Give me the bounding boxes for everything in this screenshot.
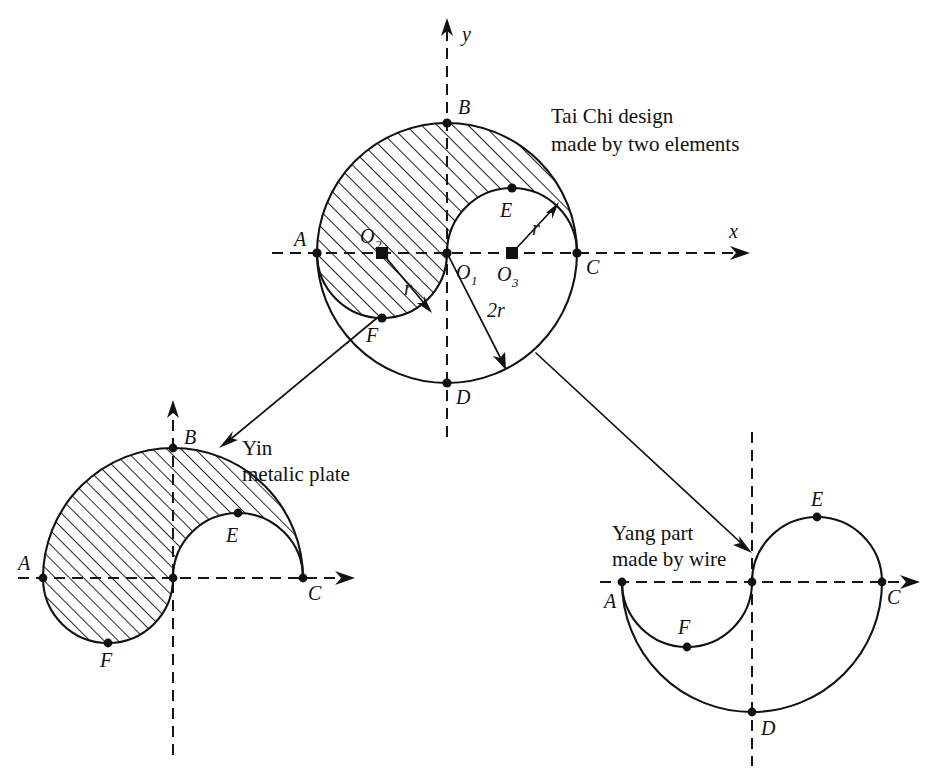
main-label-o2-subscript: 2	[375, 237, 382, 252]
connector-yin-arrowhead	[219, 431, 238, 448]
main-r-right-arrowhead	[546, 202, 559, 219]
yang-point-origin-dot	[748, 578, 757, 587]
main-point-o3-marker	[506, 247, 518, 259]
yang-panel: A C D E F Yang part made by wire	[600, 432, 920, 766]
main-label-o3: O 3	[497, 263, 519, 290]
yang-label-c: C	[887, 586, 901, 608]
yang-point-e-dot	[813, 513, 822, 522]
main-label-o3-base: O	[497, 263, 511, 285]
yang-point-a-dot	[618, 578, 627, 587]
main-label-c: C	[586, 256, 600, 278]
main-2r-label: 2r	[487, 299, 505, 321]
yang-label-f: F	[677, 616, 691, 638]
yin-label-b: B	[184, 426, 196, 448]
main-caption-line-1: Tai Chi design	[551, 104, 674, 128]
yang-inner-arc-right	[752, 517, 882, 582]
yin-point-origin-dot	[169, 574, 178, 583]
main-r-right-label: r	[532, 217, 540, 239]
main-label-o1-subscript: 1	[471, 273, 478, 288]
yin-point-e-dot	[234, 509, 243, 518]
connector-yang-line	[536, 353, 740, 542]
yang-caption-line-2: made by wire	[612, 547, 726, 571]
yin-point-f-dot	[104, 639, 113, 648]
main-caption-line-2: made by two elements	[551, 132, 739, 156]
main-point-e-dot	[507, 183, 516, 192]
yang-x-axis-arrowhead	[900, 575, 920, 589]
yang-point-c-dot	[878, 578, 887, 587]
main-panel: y x r r 2r	[180, 18, 750, 440]
main-label-e: E	[499, 199, 512, 221]
main-r-left-label: r	[404, 277, 412, 299]
yang-point-d-dot	[748, 708, 757, 717]
main-label-o1: O 1	[456, 261, 478, 288]
figure-root: y x r r 2r	[0, 0, 947, 773]
connector-yin-line	[232, 318, 377, 438]
yang-label-e: E	[810, 488, 823, 510]
main-point-a-dot	[312, 248, 321, 257]
main-label-o2-base: O	[360, 225, 374, 247]
yin-y-axis-arrowhead	[167, 400, 179, 418]
main-label-f: F	[365, 324, 379, 346]
tai-chi-figure: y x r r 2r	[0, 0, 947, 773]
main-point-f-dot	[377, 313, 386, 322]
yang-caption-line-1: Yang part	[612, 521, 693, 545]
connector-arrow-yin	[219, 318, 377, 448]
main-y-axis-label: y	[460, 23, 471, 46]
main-label-d: D	[455, 386, 471, 408]
yin-x-axis-arrowhead	[335, 571, 355, 585]
yang-label-d: D	[760, 717, 776, 739]
yang-label-a: A	[602, 590, 617, 612]
main-label-o3-subscript: 3	[511, 275, 519, 290]
yin-label-e: E	[225, 524, 238, 546]
yin-caption-line-2: metalic plate	[242, 462, 350, 486]
yin-label-f: F	[99, 649, 113, 671]
main-label-a: A	[292, 228, 307, 250]
main-x-axis-label: x	[728, 220, 738, 242]
main-label-o1-base: O	[456, 261, 470, 283]
main-point-o1-dot	[442, 248, 451, 257]
yin-point-b-dot	[169, 444, 178, 453]
main-label-b: B	[458, 96, 470, 118]
main-point-d-dot	[442, 378, 451, 387]
yin-label-a: A	[16, 552, 31, 574]
yang-point-f-dot	[683, 643, 692, 652]
yin-panel: A B C E F Yin metalic plate	[0, 400, 355, 760]
main-point-c-dot	[572, 248, 581, 257]
yin-label-c: C	[308, 582, 322, 604]
yin-point-a-dot	[39, 574, 48, 583]
main-point-b-dot	[442, 118, 451, 127]
yin-caption-line-1: Yin	[242, 436, 273, 460]
yin-point-c-dot	[299, 574, 308, 583]
